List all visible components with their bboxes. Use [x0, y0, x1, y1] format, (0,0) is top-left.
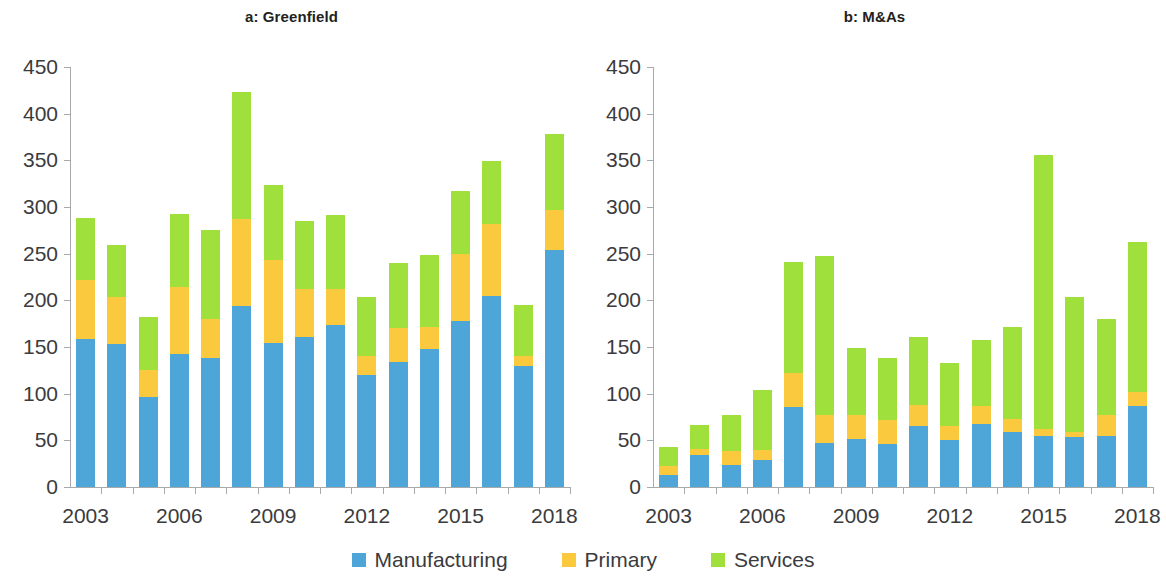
y-axis-tick-label: 300	[581, 195, 641, 219]
bar-segment-services	[514, 305, 533, 356]
bar-2015	[1034, 155, 1053, 487]
bar-segment-services	[847, 348, 866, 415]
x-axis-tick	[539, 487, 540, 494]
bar-segment-manufacturing	[76, 339, 95, 487]
y-axis-tick	[64, 254, 71, 255]
y-axis-tick	[647, 300, 654, 301]
bar-2017	[1097, 319, 1116, 487]
bar-segment-manufacturing	[264, 343, 283, 487]
x-axis-tick	[966, 487, 967, 494]
bar-segment-primary	[107, 297, 126, 345]
bar-segment-manufacturing	[545, 250, 564, 487]
bar-segment-primary	[295, 289, 314, 337]
bar-segment-services	[1097, 319, 1116, 415]
y-axis-tick-label: 0	[581, 475, 641, 499]
x-axis-tick	[445, 487, 446, 494]
y-axis-tick	[647, 254, 654, 255]
x-axis-tick	[570, 487, 571, 494]
bar-2007	[201, 230, 220, 487]
y-axis-tick-label: 150	[581, 335, 641, 359]
bar-segment-services	[264, 185, 283, 261]
y-axis-tick	[64, 440, 71, 441]
x-axis-tick-label: 2015	[1020, 504, 1067, 528]
bar-segment-primary	[659, 466, 678, 474]
bar-segment-services	[1034, 155, 1053, 429]
bar-segment-manufacturing	[878, 444, 897, 487]
bar-2010	[295, 221, 314, 487]
x-axis-tick-label: 2006	[156, 504, 203, 528]
bar-segment-primary	[232, 219, 251, 306]
legend-label-manufacturing: Manufacturing	[375, 548, 508, 572]
bar-2003	[76, 218, 95, 487]
bar-segment-primary	[420, 327, 439, 348]
legend-item-manufacturing: Manufacturing	[352, 548, 508, 572]
bar-2017	[514, 305, 533, 487]
bar-2016	[1065, 297, 1084, 487]
bar-segment-primary	[784, 373, 803, 407]
bar-segment-manufacturing	[847, 439, 866, 487]
legend-label-services: Services	[734, 548, 815, 572]
bar-segment-services	[1128, 242, 1147, 391]
y-axis-tick	[64, 487, 71, 488]
bar-segment-primary	[1003, 419, 1022, 432]
y-axis-tick-label: 400	[0, 102, 58, 126]
bar-segment-manufacturing	[659, 475, 678, 487]
x-axis-tick	[1153, 487, 1154, 494]
x-axis-tick	[226, 487, 227, 494]
y-axis-tick	[647, 440, 654, 441]
bar-2012	[357, 297, 376, 487]
bar-segment-manufacturing	[690, 455, 709, 487]
bar-2010	[878, 358, 897, 487]
bar-segment-primary	[722, 451, 741, 465]
bar-segment-manufacturing	[107, 344, 126, 487]
x-axis-tick-label: 2009	[250, 504, 297, 528]
bar-segment-manufacturing	[389, 362, 408, 487]
y-axis-tick	[647, 67, 654, 68]
x-axis-tick-label: 2006	[739, 504, 786, 528]
x-axis-tick	[289, 487, 290, 494]
bar-segment-primary	[1128, 392, 1147, 406]
x-axis-tick	[778, 487, 779, 494]
y-axis-tick-label: 300	[0, 195, 58, 219]
bar-segment-manufacturing	[940, 440, 959, 487]
x-axis-tick	[809, 487, 810, 494]
chart-panel-mas: b: M&As 05010015020025030035040045020032…	[583, 0, 1166, 545]
bar-segment-manufacturing	[514, 366, 533, 487]
y-axis-tick-label: 50	[0, 428, 58, 452]
y-axis-line	[653, 67, 654, 488]
x-axis-tick	[1091, 487, 1092, 494]
bar-segment-services	[659, 447, 678, 467]
x-axis-tick	[351, 487, 352, 494]
bar-segment-services	[815, 256, 834, 415]
bar-2005	[139, 317, 158, 487]
bar-segment-services	[107, 245, 126, 296]
bar-2011	[326, 215, 345, 488]
y-axis-tick-label: 200	[0, 288, 58, 312]
bar-segment-manufacturing	[1097, 436, 1116, 487]
bar-segment-services	[722, 415, 741, 450]
bar-segment-primary	[753, 450, 772, 460]
bar-segment-manufacturing	[815, 443, 834, 487]
y-axis-tick-label: 100	[0, 382, 58, 406]
x-axis-tick-label: 2018	[531, 504, 578, 528]
x-axis-tick	[476, 487, 477, 494]
bar-segment-primary	[357, 356, 376, 375]
bar-segment-manufacturing	[170, 354, 189, 487]
y-axis-tick-label: 0	[0, 475, 58, 499]
bar-2007	[784, 262, 803, 487]
y-axis-tick	[647, 114, 654, 115]
bar-segment-services	[76, 218, 95, 280]
bar-segment-primary	[139, 370, 158, 397]
bar-2011	[909, 337, 928, 487]
x-axis-tick	[164, 487, 165, 494]
panel-b-title: b: M&As	[583, 8, 1166, 25]
figure-stacked-bar-charts: a: Greenfield 05010015020025030035040045…	[0, 0, 1166, 587]
bar-2014	[420, 255, 439, 487]
bar-segment-primary	[815, 415, 834, 443]
x-axis-tick	[508, 487, 509, 494]
bar-segment-services	[170, 214, 189, 288]
bar-segment-services	[420, 255, 439, 328]
bar-2009	[264, 185, 283, 487]
bar-2008	[815, 256, 834, 487]
y-axis-line	[70, 67, 71, 488]
